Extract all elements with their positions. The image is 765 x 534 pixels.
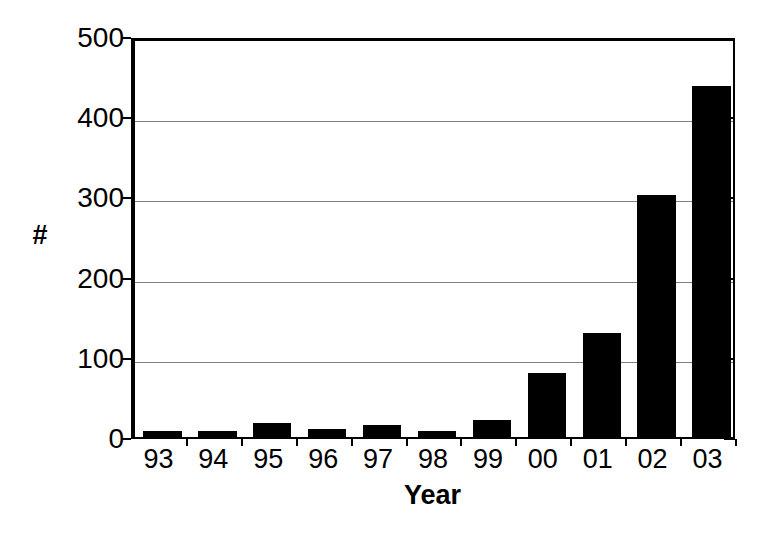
- x-axis-tick-mark: [515, 439, 517, 446]
- x-axis-tick-label: 97: [351, 446, 406, 473]
- bar: [473, 420, 511, 437]
- plot-area: [131, 38, 735, 439]
- x-axis-tick-label: 95: [241, 446, 296, 473]
- x-axis-tick-mark: [570, 439, 572, 446]
- y-axis-tick-mark: [122, 278, 131, 280]
- y-axis-tick-label: 300: [8, 184, 124, 212]
- x-axis-tick-label: 98: [406, 446, 461, 473]
- bar: [308, 429, 346, 437]
- x-axis-tick-mark: [241, 439, 243, 446]
- y-axis-tick-mark: [122, 358, 131, 360]
- x-axis-tick-label: 02: [625, 446, 680, 473]
- bar: [418, 431, 456, 437]
- x-axis-title: Year: [130, 482, 735, 509]
- y-axis-tick-mark: [724, 358, 735, 360]
- x-axis-tick-mark: [735, 439, 737, 446]
- y-axis-tick-mark: [724, 438, 735, 440]
- bar: [143, 431, 181, 437]
- x-axis-tick-label: 93: [131, 446, 186, 473]
- x-axis-tick-label: 96: [296, 446, 351, 473]
- x-axis-tick-mark: [351, 439, 353, 446]
- x-axis-tick-label: 03: [680, 446, 735, 473]
- y-axis-tick-label: 500: [8, 24, 124, 52]
- x-axis-tick-label: 99: [460, 446, 515, 473]
- y-axis-tick-label: 100: [8, 345, 124, 373]
- bar-series: [135, 41, 733, 437]
- x-axis-tick-mark: [460, 439, 462, 446]
- y-axis-tick-mark: [724, 117, 735, 119]
- y-axis-tick-mark: [122, 37, 131, 39]
- x-axis-tick-mark: [406, 439, 408, 446]
- bar: [253, 423, 291, 437]
- y-axis-tick-label: 200: [8, 265, 124, 293]
- x-axis-tick-mark: [625, 439, 627, 446]
- x-axis-tick-label: 01: [570, 446, 625, 473]
- bar: [363, 425, 401, 437]
- x-axis-tick-mark: [296, 439, 298, 446]
- x-axis-tick-labels: 9394959697989900010203: [131, 446, 735, 480]
- bar-chart: # 0100200300400500 939495969798990001020…: [0, 0, 765, 534]
- y-axis-tick-mark: [724, 278, 735, 280]
- x-axis-tick-label: 94: [186, 446, 241, 473]
- y-axis-tick-mark: [724, 197, 735, 199]
- bar: [692, 86, 730, 437]
- bar: [528, 373, 566, 437]
- y-axis-tick-label: 0: [8, 425, 124, 453]
- x-axis-tick-mark: [186, 439, 188, 446]
- y-axis-tick-label: 400: [8, 104, 124, 132]
- y-axis-tick-mark: [122, 438, 131, 440]
- y-axis-tick-labels: 0100200300400500: [0, 0, 124, 534]
- bar: [637, 195, 675, 437]
- x-axis-tick-label: 00: [515, 446, 570, 473]
- y-axis-tick-mark: [122, 117, 131, 119]
- y-axis-tick-mark: [122, 197, 131, 199]
- bar: [198, 431, 236, 437]
- bar: [583, 333, 621, 437]
- x-axis-tick-mark: [680, 439, 682, 446]
